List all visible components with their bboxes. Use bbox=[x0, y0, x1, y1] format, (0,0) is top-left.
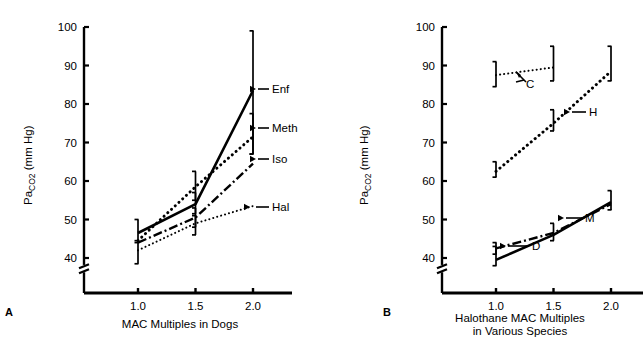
series-label-group-Hal: Hal bbox=[244, 201, 289, 213]
label-arrowhead bbox=[244, 204, 250, 210]
series-label-group-Meth: Meth bbox=[250, 122, 298, 134]
y-tick-label: 90 bbox=[422, 60, 435, 72]
panel-a-y-axis-label: PaCO2 (mm Hg) bbox=[22, 126, 37, 205]
y-tick-label: 60 bbox=[64, 175, 77, 187]
series-line-H bbox=[496, 71, 611, 171]
series-label-D: D bbox=[532, 240, 540, 252]
label-arrowhead bbox=[558, 215, 564, 221]
series-label-group-C: C bbox=[516, 78, 534, 90]
y-tick-label: 80 bbox=[422, 98, 435, 110]
series-label-Meth: Meth bbox=[272, 122, 298, 134]
panel-a-plot: 4050607080901001.01.52.0EnfMethIsoHal bbox=[0, 0, 330, 342]
y-tick-label: 90 bbox=[64, 60, 77, 72]
plot-area: 4050607080901001.01.52.0CHMD bbox=[416, 21, 643, 312]
y-tick-label: 70 bbox=[64, 137, 77, 149]
error-bars-Meth bbox=[192, 114, 254, 201]
panel-a-x-axis-label: MAC Multiples in Dogs bbox=[60, 318, 300, 331]
plot-area: 4050607080901001.01.52.0EnfMethIsoHal bbox=[58, 21, 298, 312]
y-tick-label: 80 bbox=[64, 98, 77, 110]
y-tick-label: 100 bbox=[416, 21, 435, 33]
series-label-Hal: Hal bbox=[272, 201, 289, 213]
x-tick-label: 1.5 bbox=[188, 300, 204, 312]
panel-b-plot: 4050607080901001.01.52.0CHMD bbox=[330, 0, 643, 342]
label-arrowhead bbox=[500, 243, 506, 249]
series-label-group-Enf: Enf bbox=[250, 83, 290, 95]
x-tick-label: 2.0 bbox=[245, 300, 261, 312]
series-label-M: M bbox=[585, 212, 595, 224]
series-line-C bbox=[496, 67, 554, 75]
x-tick-label: 1.0 bbox=[488, 300, 504, 312]
error-bars-Enf bbox=[135, 31, 254, 241]
y-tick-label: 40 bbox=[64, 252, 77, 264]
panel-b: 4050607080901001.01.52.0CHMD PaCO2 (mm H… bbox=[330, 0, 643, 342]
panel-b-x-axis-label: Halothane MAC Multiples in Various Speci… bbox=[420, 312, 620, 338]
label-arrowhead bbox=[250, 156, 256, 162]
figure-container: 4050607080901001.01.52.0EnfMethIsoHal Pa… bbox=[0, 0, 643, 342]
y-tick-label: 60 bbox=[422, 175, 435, 187]
x-tick-label: 1.0 bbox=[130, 300, 146, 312]
leader-line bbox=[516, 80, 524, 82]
panel-b-y-axis-label: PaCO2 (mm Hg) bbox=[358, 126, 373, 205]
x-tick-label: 1.5 bbox=[546, 300, 562, 312]
panel-a: 4050607080901001.01.52.0EnfMethIsoHal Pa… bbox=[0, 0, 330, 342]
y-tick-label: 100 bbox=[58, 21, 77, 33]
series-label-Enf: Enf bbox=[272, 83, 290, 95]
y-tick-label: 40 bbox=[422, 252, 435, 264]
series-label-Iso: Iso bbox=[272, 153, 287, 165]
series-label-C: C bbox=[526, 78, 534, 90]
y-tick-label: 50 bbox=[64, 214, 77, 226]
y-tick-label: 70 bbox=[422, 137, 435, 149]
y-tick-label: 50 bbox=[422, 214, 435, 226]
panel-a-letter: A bbox=[5, 306, 13, 318]
series-label-group-Iso: Iso bbox=[250, 153, 287, 165]
series-label-H: H bbox=[589, 106, 597, 118]
panel-b-letter: B bbox=[383, 306, 391, 318]
x-tick-label: 2.0 bbox=[603, 300, 619, 312]
